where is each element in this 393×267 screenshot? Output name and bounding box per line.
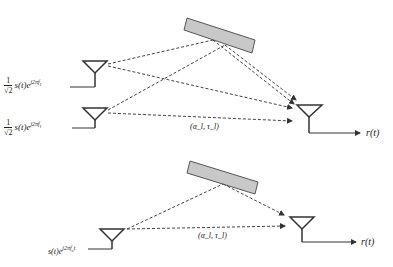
rx-antenna-bottom-icon <box>290 217 356 242</box>
signal-text: s(t)e <box>14 80 30 90</box>
top-signal-paths <box>108 40 296 121</box>
exponent-text: j2πf <box>30 121 39 127</box>
multipath-diagram: 1 √2 s(t)ej2πfl 1 √2 s(t)ej2πfl (α_l, τ_… <box>0 0 393 267</box>
exponent-subscript: l <box>40 124 41 129</box>
bottom-output-label: r(t) <box>361 237 374 247</box>
scale-fraction: 1 √2 <box>4 118 12 137</box>
fraction-denominator: √2 <box>4 128 12 137</box>
signal-text: s(t)e <box>48 247 62 256</box>
tx1-signal-label: 1 √2 s(t)ej2πfl <box>4 76 41 95</box>
top-output-label: r(t) <box>366 128 379 138</box>
exponent-text: j2πf <box>30 79 39 85</box>
diagram-canvas <box>0 0 393 267</box>
tx1-antenna-icon <box>70 61 107 87</box>
rx-antenna-top-icon <box>297 105 360 133</box>
bottom-reflector <box>187 161 258 194</box>
bottom-path-label: (α_l, τ_l) <box>198 232 227 240</box>
tx-antenna-bottom-icon <box>88 229 124 249</box>
exponent-tail: t <box>74 245 76 251</box>
bottom-signal-paths <box>127 184 285 229</box>
scale-fraction: 1 √2 <box>4 76 12 95</box>
exponent-subscript: l <box>40 82 41 87</box>
signal-text: s(t)e <box>14 122 30 132</box>
fraction-numerator: 1 <box>4 118 12 128</box>
top-path-label: (α_l, τ_l) <box>190 123 219 131</box>
exponent-text: j2πf <box>62 245 71 251</box>
tx2-signal-label: 1 √2 s(t)ej2πfl <box>4 118 41 137</box>
bottom-tx-signal-label: s(t)ej2πfct <box>48 245 75 256</box>
tx2-antenna-icon <box>72 108 107 128</box>
fraction-numerator: 1 <box>4 76 12 86</box>
fraction-denominator: √2 <box>4 86 12 95</box>
